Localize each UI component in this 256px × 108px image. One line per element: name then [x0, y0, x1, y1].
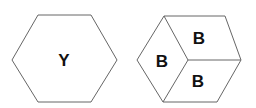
diagram-canvas: Y B B B [0, 0, 256, 108]
left-hexagon: Y [12, 15, 117, 102]
left-hexagon-label: Y [58, 51, 70, 70]
face-top-label: B [193, 29, 205, 48]
face-left-label: B [156, 52, 168, 71]
right-hexagon: B B B [137, 16, 241, 102]
face-bottom-label: B [192, 72, 204, 91]
